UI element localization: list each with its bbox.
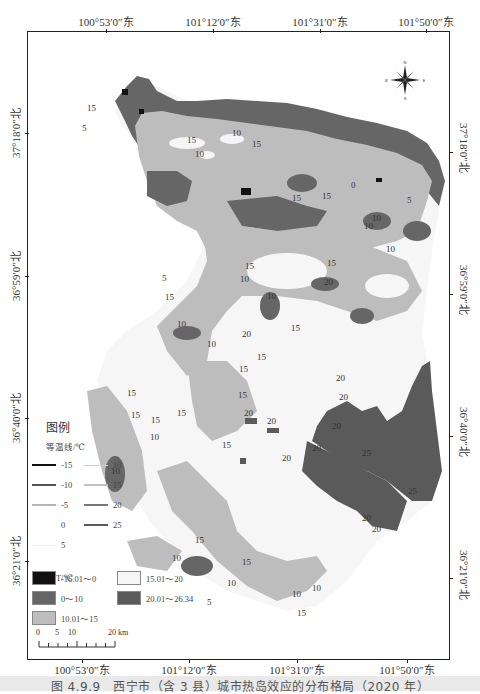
svg-text:20: 20: [324, 277, 334, 287]
isotherm-item: 0: [32, 520, 65, 530]
svg-text:15: 15: [257, 352, 267, 362]
isotherm-line-swatch: [32, 545, 56, 546]
tick-bottom-4: [407, 659, 408, 663]
svg-text:20: 20: [244, 408, 254, 418]
isotherm-line-swatch: [84, 465, 108, 466]
svg-text:20: 20: [362, 513, 372, 523]
tick-right-2: [449, 294, 453, 295]
scale-label-10: 10: [68, 628, 76, 637]
svg-text:15: 15: [252, 139, 262, 149]
svg-text:25: 25: [408, 486, 418, 496]
region-0-10-blob: [350, 308, 374, 324]
tick-left-2: [25, 276, 29, 277]
svg-text:20: 20: [339, 392, 349, 402]
svg-text:15: 15: [242, 557, 252, 567]
isotherm-value: 25: [113, 520, 122, 530]
lst-range: 0～10: [61, 592, 83, 604]
region-neg-patch: [122, 89, 128, 95]
svg-text:5: 5: [162, 273, 167, 283]
top-coord-3: 101°31′0″东: [292, 13, 347, 29]
isotherm-item: 15: [84, 480, 122, 490]
svg-text:20: 20: [332, 421, 342, 431]
svg-text:15: 15: [322, 191, 332, 201]
isotherm-line-swatch: [84, 504, 108, 506]
region-0-10-blob: [287, 174, 317, 192]
svg-text:10: 10: [172, 553, 182, 563]
lst-swatch: [117, 571, 141, 585]
svg-text:20: 20: [282, 453, 292, 463]
compass-s: S: [404, 96, 407, 100]
isotherm-value: 10: [113, 460, 122, 470]
bottom-coord-4: 101°50′0″东: [379, 661, 434, 677]
isotherm-line-swatch: [84, 484, 108, 486]
tick-top-3: [320, 29, 321, 33]
lst-class-item: 20.01～26.34: [117, 591, 193, 605]
svg-text:5: 5: [407, 195, 412, 205]
isotherm-item: 25: [84, 520, 122, 530]
region-neg-patch: [376, 178, 382, 182]
svg-text:10: 10: [207, 339, 217, 349]
isotherm-title: 等温线/℃: [46, 440, 85, 452]
lst-range: 15.01～20: [146, 572, 183, 584]
left-coord-4: 36°21′0″北: [7, 536, 23, 586]
isotherm-value: 15: [113, 480, 122, 490]
left-coord-3: 36°40′0″北: [7, 393, 23, 443]
svg-text:5: 5: [82, 123, 87, 133]
isotherm-value: -10: [61, 480, 72, 490]
tick-top-1: [106, 29, 107, 33]
svg-text:15: 15: [131, 410, 141, 420]
figure-caption: 图 4.9.9 西宁市（含 3 县）城市热岛效应的分布格局（2020 年）: [0, 677, 480, 694]
svg-text:10: 10: [150, 432, 160, 442]
svg-text:15: 15: [239, 364, 249, 374]
svg-text:10: 10: [267, 291, 277, 301]
right-coord-2: 36°59′0″北: [457, 265, 473, 315]
tick-left-1: [25, 133, 29, 134]
isotherm-line-swatch: [32, 524, 56, 526]
tick-bottom-1: [82, 659, 83, 663]
region-20-26-patch: [245, 418, 257, 424]
top-coord-4: 101°50′0″东: [398, 13, 453, 29]
lst-swatch: [117, 591, 141, 605]
region-15-20-patch: [365, 274, 409, 298]
isotherm-value: -5: [61, 500, 68, 510]
svg-text:20: 20: [336, 373, 346, 383]
isotherm-line-swatch: [32, 464, 56, 466]
svg-text:15: 15: [297, 608, 307, 618]
tick-left-3: [25, 418, 29, 419]
isotherm-value: 5: [61, 540, 65, 550]
right-coord-4: 36°21′0″北: [457, 550, 473, 600]
isotherm-item: 10: [84, 460, 122, 470]
map-canvas[interactable]: 15 10 10 15 15 15 0 5 10 10 10 15 20 10 …: [27, 31, 450, 660]
region-20-26-patch: [267, 428, 279, 433]
svg-text:15: 15: [245, 261, 255, 271]
svg-text:10: 10: [240, 274, 250, 284]
isotherm-item: -5: [32, 500, 68, 510]
compass-n: N: [404, 60, 407, 65]
region-neg-patch: [241, 188, 251, 195]
isotherm-item: -10: [32, 480, 72, 490]
svg-text:10: 10: [372, 213, 382, 223]
svg-text:5: 5: [207, 597, 212, 607]
lst-range: 20.01～26.34: [146, 592, 193, 604]
lst-swatch: [32, 591, 56, 605]
svg-text:15: 15: [291, 323, 301, 333]
lst-swatch: [32, 571, 56, 585]
region-0-10-blob: [403, 221, 431, 241]
region-20-26-patch: [240, 458, 246, 464]
isotherm-value: 0: [61, 520, 65, 530]
compass-rose-icon: N S W E: [385, 60, 425, 100]
lst-class-item: 15.01～20: [117, 571, 183, 585]
svg-text:20: 20: [242, 329, 252, 339]
bottom-coord-3: 101°31′0″东: [269, 661, 324, 677]
isotherm-item: 20: [84, 500, 122, 510]
tick-bottom-3: [297, 659, 298, 663]
compass-e: E: [423, 78, 425, 83]
left-coord-2: 36°59′0″北: [7, 251, 23, 301]
lst-range: -16.01～0: [61, 572, 96, 584]
left-coord-1: 37°18′0″北: [7, 108, 23, 158]
region-0-10-blob: [181, 556, 213, 576]
isotherm-line-swatch: [84, 524, 108, 526]
svg-text:10: 10: [312, 583, 322, 593]
svg-text:20: 20: [372, 524, 382, 534]
svg-text:15: 15: [292, 193, 302, 203]
